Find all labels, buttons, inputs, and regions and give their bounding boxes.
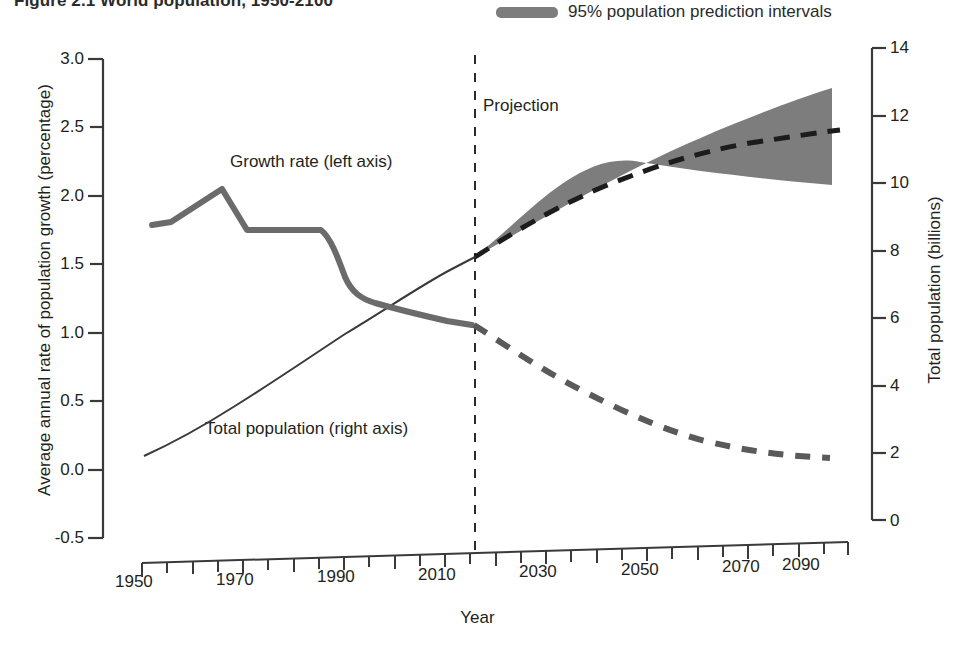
x-axis-spine (142, 542, 848, 577)
total-population-line (144, 257, 475, 456)
chart-canvas (0, 0, 955, 648)
prediction-interval-band (475, 88, 832, 257)
growth-rate-projection-line (474, 325, 830, 458)
growth-rate-line (152, 189, 472, 325)
y-axis-right-spine (872, 48, 886, 520)
figure-container: Figure 2.1 World population, 1950-2100 9… (0, 0, 955, 648)
y-axis-left-spine (88, 59, 103, 538)
